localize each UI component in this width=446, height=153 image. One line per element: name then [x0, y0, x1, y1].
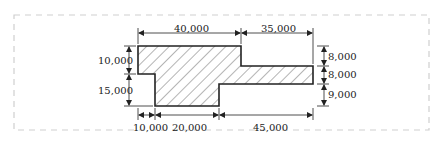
dim-top-right-label: 35,000 — [261, 24, 296, 34]
dim-right-top-label: 8,000 — [328, 52, 357, 62]
dim-left-upper-label: 10,000 — [98, 56, 133, 66]
bottom-dimensions — [138, 108, 313, 120]
dim-right-bottom-label: 9,000 — [328, 90, 357, 100]
dim-top-left-label: 40,000 — [174, 24, 209, 34]
dim-bottom-middle-label: 20,000 — [172, 123, 207, 133]
drawing-canvas — [0, 0, 446, 153]
dim-right-middle-label: 8,000 — [328, 70, 357, 80]
hatched-cross-section — [138, 46, 313, 106]
dim-bottom-right-label: 45,000 — [253, 123, 288, 133]
dim-left-lower-label: 15,000 — [98, 86, 133, 96]
dim-bottom-left-label: 10,000 — [133, 123, 168, 133]
